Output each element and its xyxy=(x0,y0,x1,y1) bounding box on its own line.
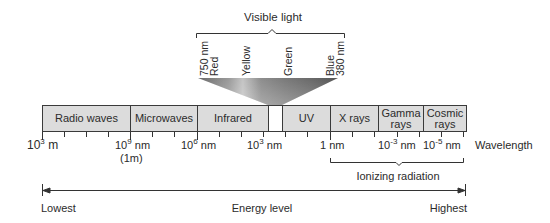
band-cosmic-rays: Cosmic rays xyxy=(423,105,467,132)
tick-label-10-minus5-nm: 10-5 nm xyxy=(423,139,461,151)
ionizing-radiation-label: Ionizing radiation xyxy=(356,170,439,182)
vis-label-red-name: Red xyxy=(209,38,219,76)
vis-label-yellow-text: Yellow xyxy=(240,46,252,76)
tick-unit: nm xyxy=(198,139,216,151)
vis-label-red-text: Red xyxy=(208,57,220,76)
energy-lowest-label: Lowest xyxy=(41,202,76,214)
tick-sublabel-1m: (1m) xyxy=(120,152,143,164)
vis-label-green: Green xyxy=(283,38,293,76)
energy-level-title: Energy level xyxy=(232,202,293,214)
tick-base: 10 xyxy=(247,139,259,151)
tick-unit: nm xyxy=(132,139,150,151)
vis-label-blue-nm-text: 380 nm xyxy=(334,41,346,76)
energy-level-arrow xyxy=(43,184,466,196)
band-uv: UV xyxy=(282,105,330,132)
band-infrared: Infrared xyxy=(197,105,268,132)
tick-label-10-3-nm: 103 nm xyxy=(247,139,282,151)
ionizing-radiation-bracket xyxy=(331,158,464,166)
energy-highest-label: Highest xyxy=(430,202,467,214)
tick-base: 10 xyxy=(423,139,435,151)
tick-label-10-6-nm: 106 nm xyxy=(181,139,216,151)
tick-base: 10 xyxy=(378,139,390,151)
vis-label-green-text: Green xyxy=(282,47,294,76)
tick-label-10-9-nm: 109 nm xyxy=(115,139,150,151)
tick-base: 10 xyxy=(27,138,40,152)
band-radio-waves: Radio waves xyxy=(42,105,130,132)
band-visible-gap xyxy=(268,105,282,132)
tick-unit: nm xyxy=(442,139,460,151)
tick-unit: nm xyxy=(326,139,344,151)
electromagnetic-spectrum-diagram: Visible light 750 nm Red Yellow Green Bl… xyxy=(0,0,550,223)
vis-label-blue-nm: 380 nm xyxy=(335,38,345,76)
visible-light-title: Visible light xyxy=(244,11,302,23)
band-x-rays: X rays xyxy=(330,105,378,132)
band-gamma-rays: Gamma rays xyxy=(378,105,423,132)
tick-unit: nm xyxy=(397,139,415,151)
tick-label-10-minus3-nm: 10-3 nm xyxy=(378,139,416,151)
visible-light-bracket xyxy=(197,30,345,39)
tick-label-1-nm: 1 nm xyxy=(320,139,344,151)
tick-unit: m xyxy=(45,138,58,152)
band-microwaves: Microwaves xyxy=(130,105,197,132)
vis-label-yellow: Yellow xyxy=(241,38,251,76)
wavelength-axis-label: Wavelength xyxy=(475,139,533,151)
tick-unit: nm xyxy=(264,139,282,151)
tick-base: 10 xyxy=(181,139,193,151)
tick-label-10-3-m: 103 m xyxy=(27,139,58,151)
tick-base: 10 xyxy=(115,139,127,151)
